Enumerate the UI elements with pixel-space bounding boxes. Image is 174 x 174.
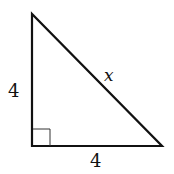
right-angle-marker [33,129,50,146]
hypotenuse-label: x [104,65,114,85]
right-triangle [32,14,162,146]
triangle-diagram: 4 x 4 [0,0,174,174]
left-leg-label: 4 [8,80,19,101]
bottom-leg-label: 4 [90,150,101,171]
